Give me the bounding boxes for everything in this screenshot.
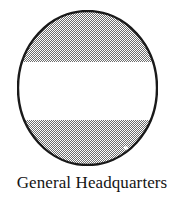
band-middle [17,62,158,120]
emblem-roundel [17,10,158,166]
white-speck-icon [124,146,129,150]
emblem-svg [17,10,158,166]
figure-caption: General Headquarters [0,172,184,193]
band-top [17,10,158,62]
figure-general-headquarters: General Headquarters [0,0,184,197]
